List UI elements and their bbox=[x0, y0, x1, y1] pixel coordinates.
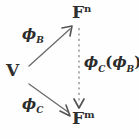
phi-c-subscript: C bbox=[36, 105, 43, 115]
phi-b-subscript: B bbox=[36, 35, 44, 45]
node-fn-base: F bbox=[72, 2, 84, 22]
node-label-fm: Fm bbox=[72, 110, 95, 127]
edge-label-phi-b: ϕB bbox=[22, 26, 44, 45]
phi-b-symbol: ϕ bbox=[22, 25, 36, 43]
transition-close-paren: ) bbox=[134, 53, 139, 71]
node-fm-base: F bbox=[72, 108, 84, 128]
transition-phi-b-subscript: B bbox=[127, 64, 135, 74]
edge-label-phi-c: ϕC bbox=[22, 96, 43, 115]
arrow-transition-dashed bbox=[74, 28, 84, 108]
transition-phi-c-symbol: ϕ bbox=[84, 53, 98, 71]
commutative-diagram: V Fn Fm ϕB ϕC ϕC(ϕB)-1 bbox=[0, 0, 139, 139]
node-v-base: V bbox=[6, 60, 19, 80]
phi-c-symbol: ϕ bbox=[22, 95, 36, 113]
node-label-v: V bbox=[6, 62, 19, 79]
node-fm-superscript: m bbox=[84, 109, 95, 120]
edge-label-transition: ϕC(ϕB)-1 bbox=[84, 54, 139, 74]
node-label-fn: Fn bbox=[72, 4, 91, 21]
transition-phi-b-symbol: ϕ bbox=[112, 53, 126, 71]
node-fn-superscript: n bbox=[84, 3, 91, 14]
